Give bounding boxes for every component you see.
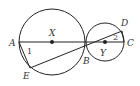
angle-1-label: 1 bbox=[27, 47, 32, 56]
label-c: C bbox=[127, 38, 134, 48]
center-y-dot bbox=[103, 40, 107, 44]
label-b: B bbox=[82, 56, 90, 66]
label-x: X bbox=[48, 28, 56, 38]
label-e: E bbox=[22, 71, 30, 81]
segment-ed bbox=[30, 31, 122, 68]
angle-2-label: 2 bbox=[113, 33, 118, 42]
label-d: D bbox=[120, 18, 128, 28]
label-a: A bbox=[8, 38, 16, 48]
center-x-dot bbox=[50, 40, 54, 44]
geometry-diagram: A X B Y C D E 1 2 bbox=[0, 0, 140, 86]
label-y: Y bbox=[100, 48, 107, 58]
